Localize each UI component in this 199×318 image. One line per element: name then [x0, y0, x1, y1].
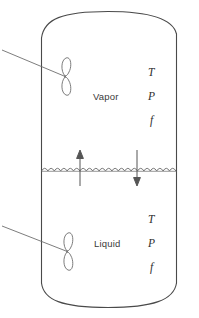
vapor-phase-label: Vapor	[93, 91, 119, 102]
vapor-temperature-symbol: T	[148, 66, 154, 78]
liquid-stirrer-hub	[66, 251, 68, 253]
liquid-pressure-symbol: P	[148, 237, 155, 249]
condensation-arrow-head	[134, 178, 141, 187]
liquid-temperature-symbol: T	[148, 213, 154, 225]
liquid-stirrer-shaft	[2, 226, 66, 251]
vessel-top-dome	[42, 12, 177, 39]
vapor-stirrer-shaft	[2, 50, 64, 76]
liquid-phase-stirrer	[2, 226, 73, 270]
vapor-stirrer-hub	[64, 76, 66, 78]
vessel-drawing	[0, 0, 199, 318]
vapor-fugacity-symbol: f	[150, 114, 153, 126]
vapor-stirrer-lower-blade	[62, 77, 71, 95]
vapor-liquid-equilibrium-diagram: Vapor T P f Liquid T P f	[0, 0, 199, 318]
liquid-stirrer-lower-blade	[64, 252, 73, 270]
wavy-phase-boundary	[42, 168, 177, 171]
vessel-bottom-dome	[42, 283, 177, 308]
vapor-phase-stirrer	[2, 50, 71, 95]
vessel-outline	[42, 12, 177, 308]
vapor-pressure-symbol: P	[148, 90, 155, 102]
vapor-stirrer-upper-blade	[62, 58, 71, 76]
liquid-fugacity-symbol: f	[150, 261, 153, 273]
vaporization-arrow-head	[77, 150, 84, 159]
interface-wave-line	[42, 168, 176, 171]
liquid-phase-label: Liquid	[94, 238, 121, 249]
liquid-stirrer-upper-blade	[64, 233, 73, 251]
